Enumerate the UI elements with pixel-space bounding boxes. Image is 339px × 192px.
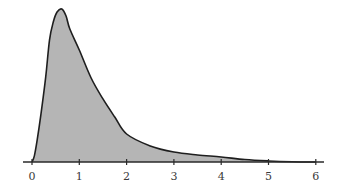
density-area-fill [32,9,316,162]
tick-label-3: 3 [170,170,177,183]
tick-label-6: 6 [312,170,319,183]
x-axis-tick-labels: 0 1 2 3 4 5 6 [29,170,320,183]
density-chart: 0 1 2 3 4 5 6 [0,0,339,192]
tick-label-1: 1 [76,170,83,183]
tick-label-5: 5 [265,170,272,183]
tick-label-0: 0 [29,170,36,183]
tick-label-4: 4 [218,170,225,183]
tick-label-2: 2 [123,170,130,183]
